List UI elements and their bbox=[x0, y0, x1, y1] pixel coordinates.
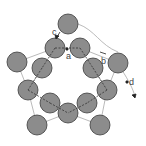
ring-diagram: c a b d bbox=[0, 0, 146, 146]
label-d: d bbox=[129, 77, 134, 87]
label-c: c bbox=[52, 27, 57, 37]
sphere-outer-bottom-right bbox=[90, 115, 110, 135]
label-a: a bbox=[66, 51, 71, 61]
spheres bbox=[7, 14, 128, 135]
sphere-outer-left bbox=[7, 52, 27, 72]
sphere-outer-right bbox=[108, 53, 128, 73]
label-b: b bbox=[101, 56, 106, 66]
sphere-outer-bottom-left bbox=[27, 115, 47, 135]
sphere-top bbox=[58, 14, 78, 34]
